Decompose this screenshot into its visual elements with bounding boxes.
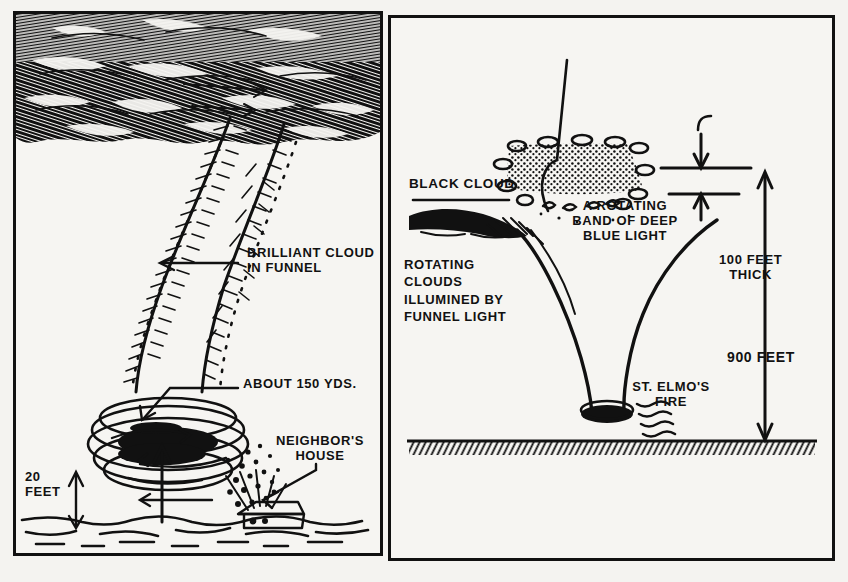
- label-rotating-clouds-illumined-by-funnel-light: ROTATING CLOUDS ILLUMINED BY FUNNEL LIGH…: [404, 256, 506, 325]
- label-100-feet-thick: 100 FEET THICK: [719, 252, 782, 282]
- ground-terrain: [22, 516, 368, 546]
- left-panel-leaders: [69, 256, 316, 528]
- label-20-feet: 20 FEET: [25, 469, 61, 499]
- illustration-stage: BRILLIANT CLOUD IN FUNNEL ABOUT 150 YDS.…: [0, 0, 848, 582]
- label-st-elmos-fire: ST. ELMO'S FIRE: [619, 379, 723, 409]
- label-black-cloud: BLACK CLOUD: [409, 176, 515, 192]
- storm-cloud-mass: [16, 14, 380, 154]
- label-brilliant-cloud-in-funnel: BRILLIANT CLOUD IN FUNNEL: [247, 245, 374, 275]
- label-neighbors-house: NEIGHBOR'S HOUSE: [259, 433, 381, 463]
- label-rotating-band-of-deep-blue-light: A ROTATING BAND OF DEEP BLUE LIGHT: [557, 198, 693, 243]
- label-900-feet: 900 FEET: [727, 349, 795, 365]
- left-illustration-panel: BRILLIANT CLOUD IN FUNNEL ABOUT 150 YDS.…: [13, 11, 383, 556]
- ground-line: [407, 441, 817, 455]
- left-panel-artwork: [16, 14, 380, 553]
- right-illustration-panel: BLACK CLOUD A ROTATING BAND OF DEEP BLUE…: [388, 15, 835, 561]
- label-about-150-yds: ABOUT 150 YDS.: [243, 376, 357, 391]
